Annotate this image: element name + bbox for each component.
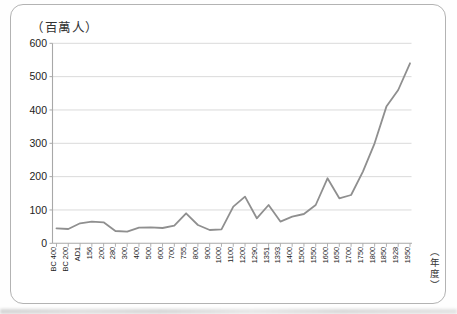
x-tick-label: 1650 [332,247,341,263]
x-tick-label: 1200 [238,247,247,263]
x-tick-label: 1600 [321,247,330,263]
x-tick-label: 1850 [379,247,388,263]
x-tick-label: AD1 [73,247,82,261]
x-tick-label: 1950 [403,247,412,263]
x-tick-label: 600 [156,247,165,259]
y-tick-label-500: 500 [29,70,47,82]
y-tick-label-0: 0 [41,237,47,249]
page: （百萬人） （年度） 0100200300400500600BC 400BC 2… [0,0,457,314]
x-tick-label: 300 [120,247,129,259]
x-tick-label: 800 [191,247,200,259]
population-line-chart: 0100200300400500600BC 400BC 200AD1156200… [0,0,457,314]
x-tick-label: 1393 [273,247,282,263]
x-tick-label: 1100 [226,247,235,263]
x-tick-label: 156 [85,247,94,259]
y-tick-label-300: 300 [29,137,47,149]
x-tick-label: 1000 [214,247,223,263]
x-tick-label: 1750 [356,247,365,263]
x-tick-label: 200 [97,247,106,259]
x-tick-label: 700 [167,247,176,259]
x-tick-label: 755 [179,247,188,259]
x-tick-label: 280 [108,247,117,259]
x-tick-label: 1290 [250,247,259,263]
cropped-text-artifact [0,309,457,314]
y-tick-label-200: 200 [29,170,47,182]
x-tick-label: 1550 [309,247,318,263]
y-tick-label-100: 100 [29,204,47,216]
x-tick-label: 1800 [368,247,377,263]
x-tick-label: 1500 [297,247,306,263]
x-tick-label: 900 [203,247,212,259]
x-tick-label: 1700 [344,247,353,263]
x-tick-label: 1351 [262,247,271,263]
x-tick-label: BC 200 [61,247,70,272]
x-tick-label: BC 400 [50,247,59,272]
x-tick-label: 500 [144,247,153,259]
x-tick-label: 1400 [285,247,294,263]
x-tick-label: 400 [132,247,141,259]
x-tick-label: 1928 [391,247,400,263]
population-series-line [57,63,411,231]
y-tick-label-600: 600 [29,37,47,49]
y-tick-label-400: 400 [29,104,47,116]
